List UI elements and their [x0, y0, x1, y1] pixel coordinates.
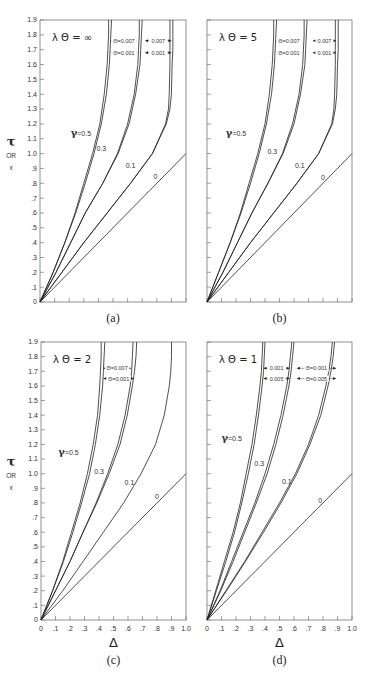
y-tick-label: .7: [31, 195, 37, 202]
panel-d: 0.1.2.3.4.5.6.7.8.91.0γ=0.50.30.100.0010…: [205, 342, 357, 667]
y-tick-label: .3: [32, 573, 38, 580]
curve-label: 0.3: [254, 460, 264, 467]
series-0-5: γ=0.5: [207, 20, 277, 302]
svg-text:0.001: 0.001: [151, 50, 165, 56]
svg-text:Θ=0.001: Θ=0.001: [113, 50, 134, 56]
theta-annotation: 0.001: [313, 50, 336, 56]
svg-text:0.001: 0.001: [318, 50, 332, 56]
y-tick-label: .7: [32, 514, 38, 521]
y-tick-label: .6: [32, 529, 38, 536]
plot-frame: [207, 342, 352, 620]
y-tick-label: 1.7: [28, 368, 38, 375]
svg-text:Θ=0.001: Θ=0.001: [306, 365, 327, 371]
y-tick-label: .4: [32, 558, 38, 565]
series-0-5: γ=0.5: [41, 342, 105, 620]
svg-text:Θ=0.007: Θ=0.007: [278, 38, 299, 44]
curve-label: 0: [321, 174, 325, 181]
svg-text:Θ=0.001: Θ=0.001: [278, 50, 299, 56]
curve-alt: [207, 20, 277, 302]
curve-label: 0: [153, 173, 157, 180]
y-tick-label: 1.1: [27, 135, 37, 142]
curve-label: 0: [155, 493, 159, 500]
y-axis-title-tau: τ: [7, 134, 16, 149]
curve-label: 0: [318, 497, 322, 504]
y-tick-label: 1.2: [28, 441, 38, 448]
x-tick-label: .9: [335, 625, 341, 632]
y-tick-label: .9: [32, 485, 38, 492]
x-tick-label: .3: [248, 625, 254, 632]
panel-c: 0.1.2.3.4.5.6.7.8.91.01.11.21.31.41.51.6…: [6, 338, 191, 667]
y-tick-label: .1: [32, 602, 38, 609]
y-tick-label: .5: [32, 543, 38, 550]
curve-label: γ=0.5: [221, 432, 242, 443]
y-tick-label: 1.2: [27, 120, 37, 127]
curve: [207, 20, 335, 302]
curve: [207, 154, 352, 302]
x-axis: 0.1.2.3.4.5.6.7.8.91.0: [39, 616, 191, 632]
svg-text:0.007: 0.007: [318, 38, 332, 44]
series-0: 0: [40, 154, 186, 302]
x-tick-label: 0: [39, 625, 43, 632]
y-tick-label: .9: [31, 165, 37, 172]
y-tick-label: 1.3: [28, 426, 38, 433]
curve: [41, 474, 186, 620]
y-tick-label: 1.0: [28, 470, 38, 477]
theta-annotation: 0.007: [313, 38, 336, 44]
panel-label: (c): [107, 653, 120, 667]
y-axis: [207, 20, 211, 302]
theta-annotation: Θ=0.001: [112, 50, 137, 56]
panel-label: (b): [273, 311, 287, 325]
x-tick-label: .7: [306, 625, 312, 632]
theta-annotation: 0.005: [264, 376, 290, 382]
x-tick-label: .4: [262, 625, 268, 632]
curve-label: 0.3: [267, 148, 277, 155]
figure-canvas: 0.1.2.3.4.5.6.7.8.91.01.11.21.31.41.51.6…: [0, 0, 367, 675]
plot-frame: [41, 342, 186, 620]
y-axis: [207, 342, 211, 620]
x-tick-label: 1.0: [181, 625, 191, 632]
theta-annotation: Θ=0.001: [277, 50, 302, 56]
y-axis: 0.1.2.3.4.5.6.7.8.91.01.11.21.31.41.51.6…: [27, 16, 44, 305]
y-tick-label: 1.6: [28, 382, 38, 389]
theta-annotation: 0.001: [264, 365, 290, 371]
series-0-3: 0.3: [40, 20, 142, 302]
y-tick-label: .6: [31, 209, 37, 216]
x-tick-label: .1: [219, 625, 225, 632]
curve: [207, 20, 274, 302]
y-tick-label: 1.6: [27, 61, 37, 68]
svg-text:Θ=0.001: Θ=0.001: [108, 376, 129, 382]
theta-annotation: 0.007: [145, 38, 171, 44]
y-tick-label: 1.5: [27, 76, 37, 83]
y-tick-label: .2: [32, 587, 38, 594]
svg-text:0.001: 0.001: [270, 365, 284, 371]
x-axis: [207, 298, 352, 302]
y-tick-label: .2: [31, 269, 37, 276]
y-tick-label: 1.5: [28, 397, 38, 404]
y-axis-title-x: x: [9, 484, 13, 491]
y-tick-label: 0: [33, 298, 37, 305]
y-axis-title-or: OR: [6, 152, 16, 159]
y-tick-label: 1.9: [28, 338, 38, 345]
x-tick-label: .9: [169, 625, 175, 632]
x-tick-label: .1: [53, 625, 59, 632]
y-axis-title-tau: τ: [7, 454, 16, 469]
curve-alt: [40, 20, 112, 302]
series-0-3: 0.3: [41, 342, 137, 620]
y-tick-label: 1.7: [27, 46, 37, 53]
theta-annotation: Θ=0.007: [277, 38, 302, 44]
param-label: λ Θ = 5: [219, 32, 257, 43]
curve-alt: [41, 342, 105, 620]
svg-text:0.005: 0.005: [270, 376, 284, 382]
y-tick-label: .1: [31, 284, 37, 291]
x-axis-title-delta: Δ: [109, 635, 118, 650]
curve: [40, 20, 139, 302]
x-tick-label: .8: [154, 625, 160, 632]
x-tick-label: .3: [82, 625, 88, 632]
y-axis: 0.1.2.3.4.5.6.7.8.91.01.11.21.31.41.51.6…: [28, 338, 45, 623]
panel-a: 0.1.2.3.4.5.6.7.8.91.01.11.21.31.41.51.6…: [6, 16, 186, 325]
svg-text:Θ=0.007: Θ=0.007: [113, 38, 134, 44]
theta-annotation: Θ=0.001: [297, 365, 336, 371]
curve: [40, 20, 109, 302]
x-tick-label: .4: [96, 625, 102, 632]
y-tick-label: 1.1: [28, 455, 38, 462]
